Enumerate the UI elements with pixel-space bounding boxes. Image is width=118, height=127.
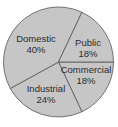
pie-chart: Domestic 40% Public 18% Commercial 18% I… <box>0 0 118 127</box>
pie-slices <box>3 7 113 117</box>
label-name: Public <box>75 37 101 48</box>
label-name: Domestic <box>16 33 56 44</box>
slice-label-public: Public 18% <box>75 37 101 59</box>
label-value: 18% <box>78 48 98 59</box>
label-value: 24% <box>36 94 56 105</box>
label-name: Commercial <box>61 64 112 75</box>
label-value: 18% <box>76 75 96 86</box>
label-name: Industrial <box>27 83 66 94</box>
label-value: 40% <box>26 44 46 55</box>
